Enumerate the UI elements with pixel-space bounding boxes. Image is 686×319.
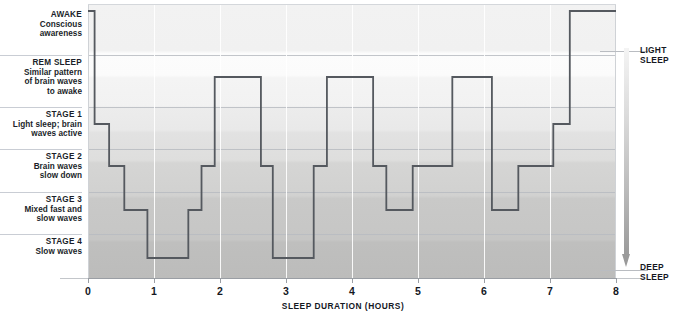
arrow-head [622,254,630,267]
stage-label-description-line: awareness [0,29,82,39]
sleep-stage-step-line [88,4,616,278]
stage-label-title: STAGE 1 [0,110,82,120]
stage-label-description-line: to awake [0,87,82,97]
stage-label-title: STAGE 4 [0,237,82,247]
stage-label-title: AWAKE [0,10,82,20]
stage-label-description-line: Similar pattern [0,68,82,78]
x-tick-label-5: 5 [406,285,430,297]
arrow-shaft [624,48,629,256]
deep-sleep-label: DEEPSLEEP [640,262,669,282]
stage-label-stage-1: STAGE 1Light sleep; brainwaves active [0,107,82,149]
light-sleep-label: LIGHTSLEEP [640,45,669,65]
x-tick-3 [286,278,287,283]
x-tick-0 [88,278,89,283]
stage-label-stage-2: STAGE 2Brain wavesslow down [0,149,82,192]
stage-label-title: STAGE 2 [0,152,82,162]
stage-label-column: AWAKEConsciousawarenessREM SLEEPSimilar … [0,0,86,278]
label-line: LIGHT [640,45,669,55]
x-tick-4 [352,278,353,283]
x-tick-label-6: 6 [472,285,496,297]
stage-label-stage-4: STAGE 4Slow waves [0,234,82,278]
stage-label-description-line: Mixed fast and [0,205,82,215]
axis-extension-left [60,278,88,279]
x-tick-label-2: 2 [208,285,232,297]
x-tick-8 [616,278,617,283]
label-line: SLEEP [640,272,669,282]
x-tick-6 [484,278,485,283]
stage-label-title: STAGE 3 [0,195,82,205]
stage-label-description-line: slow down [0,171,82,181]
x-tick-7 [550,278,551,283]
x-tick-label-0: 0 [76,285,100,297]
stage-label-description-line: Conscious [0,20,82,30]
x-tick-label-8: 8 [604,285,628,297]
label-line: SLEEP [640,55,669,65]
x-tick-label-7: 7 [538,285,562,297]
stage-label-description-line: Brain waves [0,162,82,172]
stage-label-stage-3: STAGE 3Mixed fast andslow waves [0,192,82,234]
stage-label-rem-sleep: REM SLEEPSimilar patternof brain wavesto… [0,55,82,107]
stage-label-description-line: slow waves [0,214,82,224]
stage-label-description-line: of brain waves [0,77,82,87]
stage-label-description-line: waves active [0,129,82,139]
x-tick-2 [220,278,221,283]
x-axis-title: SLEEP DURATION (HOURS) [0,301,686,311]
label-line: DEEP [640,262,669,272]
x-tick-1 [154,278,155,283]
x-tick-5 [418,278,419,283]
sleep-depth-arrow-icon [622,48,631,270]
stage-label-awake: AWAKEConsciousawareness [0,8,82,55]
sleep-cycle-chart: AWAKEConsciousawarenessREM SLEEPSimilar … [0,0,686,319]
stage-label-title: REM SLEEP [0,58,82,68]
x-tick-label-3: 3 [274,285,298,297]
x-tick-label-4: 4 [340,285,364,297]
x-tick-label-1: 1 [142,285,166,297]
plot-area [88,4,616,278]
stage-label-description-line: Slow waves [0,247,82,257]
stage-label-description-line: Light sleep; brain [0,120,82,130]
